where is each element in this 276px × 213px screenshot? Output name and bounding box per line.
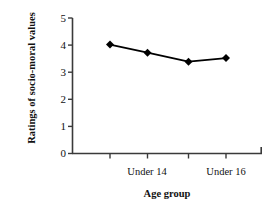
data-point-marker xyxy=(144,49,152,57)
data-point-marker xyxy=(222,54,230,62)
plot-area xyxy=(0,0,276,213)
series-line xyxy=(110,45,226,62)
data-point-marker xyxy=(106,41,114,49)
chart-figure: Ratings of socio-moral values 5 4 3 2 1 … xyxy=(0,0,276,213)
series-markers xyxy=(106,41,230,66)
data-point-marker xyxy=(185,58,193,66)
axis-lines xyxy=(72,18,262,154)
